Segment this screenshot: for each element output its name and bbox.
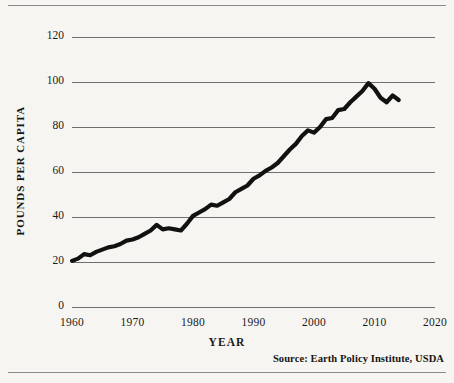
data-series-svg bbox=[72, 37, 435, 307]
source-note: Source: Earth Policy Institute, USDA bbox=[273, 353, 444, 364]
y-tick-label: 20 bbox=[53, 254, 65, 266]
x-tick-label: 1960 bbox=[60, 316, 84, 328]
plot-area: 020406080100120 bbox=[72, 37, 435, 307]
y-tick-label: 60 bbox=[53, 164, 65, 176]
x-tick-label: 1990 bbox=[241, 316, 265, 328]
y-axis-title: POUNDS PER CAPITA bbox=[14, 106, 30, 235]
gridline bbox=[72, 307, 435, 308]
x-tick-label: 2010 bbox=[362, 316, 386, 328]
y-tick-label: 100 bbox=[47, 74, 64, 86]
page-background: POUNDS PER CAPITA 020406080100120 196019… bbox=[0, 0, 454, 383]
x-tick-label: 2000 bbox=[302, 316, 326, 328]
data-line-pounds-per-capita bbox=[72, 83, 399, 261]
y-tick-label: 0 bbox=[58, 299, 64, 311]
x-tick-label: 1980 bbox=[181, 316, 205, 328]
x-tick-label: 2020 bbox=[423, 316, 447, 328]
y-tick-label: 40 bbox=[53, 209, 65, 221]
x-axis-title: YEAR bbox=[0, 336, 454, 348]
y-tick-label: 120 bbox=[47, 29, 64, 41]
x-tick-label: 1970 bbox=[120, 316, 144, 328]
line-chart: POUNDS PER CAPITA 020406080100120 196019… bbox=[0, 0, 454, 383]
y-tick-label: 80 bbox=[53, 119, 65, 131]
